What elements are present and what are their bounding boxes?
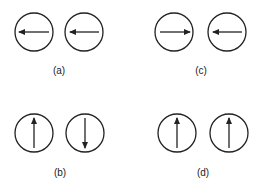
panel-c — [155, 13, 246, 51]
arrow-diagram — [0, 0, 263, 187]
panel-d — [158, 114, 248, 152]
label-b: (b) — [40, 167, 80, 178]
panel-b — [15, 114, 104, 152]
label-d: (d) — [183, 167, 223, 178]
panel-a — [15, 13, 103, 51]
label-c: (c) — [181, 65, 221, 76]
label-a: (a) — [39, 65, 79, 76]
